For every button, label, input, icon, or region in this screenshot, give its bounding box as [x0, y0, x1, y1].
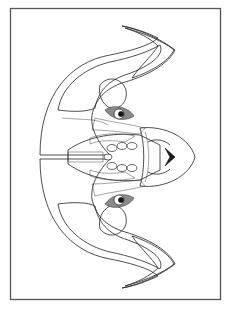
upper-horn [40, 26, 175, 155]
snout [140, 128, 195, 187]
lower-horn [40, 159, 175, 288]
ram-illustration [0, 0, 229, 314]
cheek-lower [92, 180, 145, 196]
nostril-mark [165, 148, 175, 166]
frame [11, 9, 221, 300]
cheek-upper [92, 118, 145, 134]
forehead [68, 134, 160, 181]
forehead-ovals [104, 143, 137, 172]
